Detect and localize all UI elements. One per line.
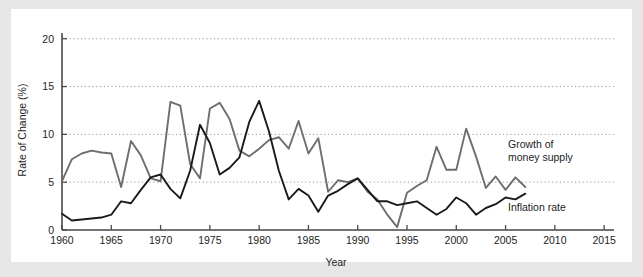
x-tick-label-1990: 1990 [346, 234, 370, 246]
x-tick-label-2000: 2000 [445, 234, 469, 246]
x-tick-label-1970: 1970 [149, 234, 173, 246]
line-chart: 05101520 1960196519701975198019851990199… [0, 0, 643, 277]
y-tick-labels: 05101520 [42, 33, 54, 236]
x-tick-label-2005: 2005 [494, 234, 518, 246]
y-tick-label-15: 15 [42, 80, 54, 92]
x-tick-label-2010: 2010 [543, 234, 567, 246]
chart-canvas: 05101520 1960196519701975198019851990199… [0, 0, 643, 277]
x-axis-title: Year [325, 256, 347, 268]
series-label-money-supply-line2: money supply [508, 151, 574, 163]
y-axis-title: Rate of Change (%) [16, 84, 28, 177]
x-tick-label-1985: 1985 [297, 234, 321, 246]
x-tick-label-1975: 1975 [198, 234, 222, 246]
x-tick-labels: 1960196519701975198019851990199520002005… [50, 234, 616, 246]
x-tick-label-1960: 1960 [50, 234, 74, 246]
x-tick-label-1965: 1965 [100, 234, 124, 246]
x-tick-label-1980: 1980 [247, 234, 271, 246]
x-tick-label-1995: 1995 [395, 234, 419, 246]
series-label-money-supply-line1: Growth of [508, 138, 554, 150]
series-line-money-supply [62, 102, 525, 227]
y-tick-label-10: 10 [42, 128, 54, 140]
series-label-inflation-rate: Inflation rate [508, 201, 566, 213]
figure-background: 05101520 1960196519701975198019851990199… [0, 0, 643, 277]
x-tick-label-2015: 2015 [592, 234, 616, 246]
y-tick-label-20: 20 [42, 33, 54, 45]
data-series [62, 101, 525, 227]
series-line-inflation-rate [62, 101, 525, 221]
y-tick-label-5: 5 [48, 176, 54, 188]
